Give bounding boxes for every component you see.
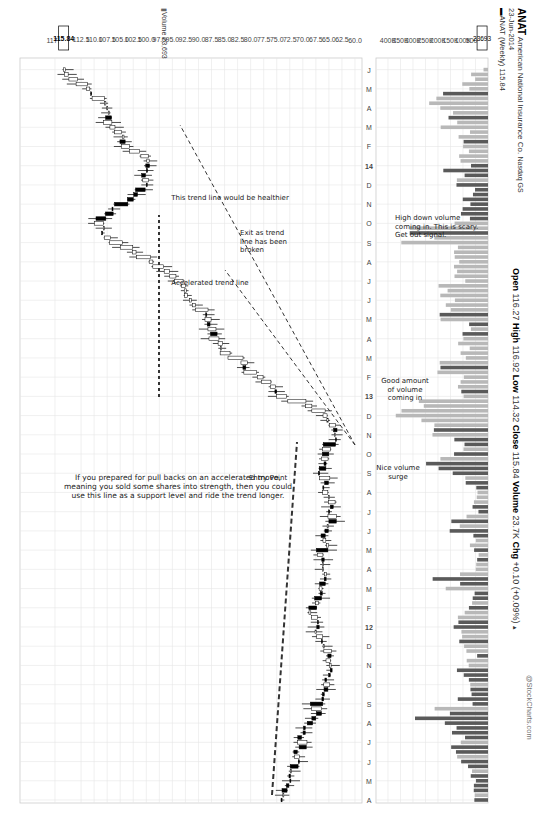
candle: [335, 438, 336, 442]
x-axis-label: S: [367, 240, 372, 247]
exchange: Nasdaq GS: [517, 156, 524, 192]
candle: [103, 226, 104, 230]
volume-bar: [449, 116, 488, 120]
volume-bar: [456, 750, 488, 754]
price-tick-label: 75.0: [270, 37, 284, 44]
candle: [327, 544, 329, 548]
volume-bar: [475, 188, 488, 192]
volume-bar: [461, 741, 488, 745]
price-tick-label: 87.5: [205, 37, 219, 44]
candle: [312, 409, 325, 413]
price-tick-label: 62.5: [335, 37, 349, 44]
volume-bar: [454, 452, 488, 456]
price-tick-label: 80.0: [244, 37, 258, 44]
candle: [322, 558, 324, 562]
x-axis-label: M: [366, 355, 372, 362]
candle: [115, 130, 122, 134]
x-axis-label: O: [366, 451, 372, 458]
candle: [330, 505, 333, 509]
volume-bar: [446, 587, 488, 591]
volume-bar: [473, 193, 488, 197]
candle: [122, 135, 124, 139]
low-value: 114.32: [511, 395, 521, 422]
volume-bar: [440, 366, 488, 370]
volume-bar: [469, 149, 488, 153]
volume-bar: [419, 399, 488, 403]
candle: [94, 222, 103, 226]
candle: [303, 731, 305, 735]
candle: [324, 462, 326, 466]
price-tick-label: 65.0: [322, 37, 336, 44]
candle: [205, 318, 211, 322]
candle: [206, 313, 207, 317]
volume-bar: [463, 145, 488, 149]
candle: [108, 111, 109, 115]
volume-bar: [469, 87, 488, 91]
x-axis-label: A: [367, 720, 372, 727]
volume-bar: [426, 462, 488, 466]
candle: [321, 640, 322, 644]
candle: [208, 327, 216, 331]
candle: [328, 495, 329, 499]
volume-bar: [461, 351, 488, 355]
volume-bar: [452, 731, 488, 735]
series-legend-icon: ▬: [498, 8, 507, 16]
volume-bar: [464, 375, 488, 379]
candle: [146, 169, 147, 173]
accelerated-trend-label: Accelerated trend line: [171, 279, 248, 287]
volume-bar: [456, 183, 488, 187]
volume-bar: [474, 789, 488, 793]
price-tick-label: 85.0: [218, 37, 232, 44]
volume-bar: [454, 274, 488, 278]
volume-bar: [475, 793, 488, 797]
volume-bar: [474, 798, 488, 802]
volume-bar: [450, 712, 488, 716]
volume-bar: [470, 217, 488, 221]
candle: [146, 164, 150, 168]
volume-bar: [472, 769, 488, 773]
candle: [323, 414, 327, 418]
candle: [321, 534, 325, 538]
svg-text:Get out signal.: Get out signal.: [395, 231, 446, 239]
volume-bar: [434, 423, 488, 427]
candle: [261, 380, 271, 384]
ohlc-line: Open 116.27 High 116.92 Low 114.32 Close…: [511, 268, 521, 630]
x-axis-label: M: [366, 586, 372, 593]
candle: [120, 140, 125, 144]
watermark: @StockCharts.com: [525, 675, 533, 740]
candle: [91, 92, 92, 96]
candle: [153, 265, 164, 269]
volume-bar: [437, 371, 488, 375]
x-axis-label: F: [367, 143, 371, 150]
volume-bar: [463, 198, 488, 202]
x-axis-label: A: [367, 489, 372, 496]
volume-bar: [467, 659, 488, 663]
candle: [290, 779, 291, 783]
close-value: 115.84: [511, 452, 521, 479]
volume-bar: [454, 438, 488, 442]
volume-bar: [457, 668, 488, 672]
candle: [309, 606, 317, 610]
candle: [322, 697, 324, 701]
candle: [325, 529, 328, 533]
candle: [312, 707, 322, 711]
candle: [104, 121, 112, 125]
candle: [143, 178, 149, 182]
candle: [104, 236, 110, 240]
series-label: ▬ANAT (Weekly) 115.84: [498, 8, 507, 91]
candle: [320, 592, 322, 596]
candle: [329, 510, 330, 514]
candle: [283, 793, 284, 797]
candle: [322, 568, 323, 572]
candle: [120, 246, 132, 250]
svg-text:broken: broken: [240, 246, 264, 254]
x-axis-label: M: [366, 547, 372, 554]
volume-bar: [459, 154, 488, 158]
volume-bar: [464, 673, 488, 677]
svg-text:23693: 23693: [473, 35, 491, 42]
volume-bar: [475, 592, 488, 596]
candle: [316, 712, 321, 716]
volume-bar: [477, 558, 488, 562]
price-tick-label: 70.0: [296, 37, 310, 44]
volume-bar: [463, 447, 488, 451]
